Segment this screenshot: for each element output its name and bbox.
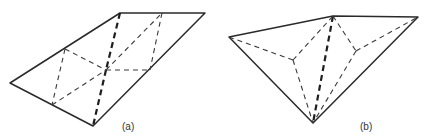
panel-b: (b) [229, 16, 418, 132]
thin-crease-line [52, 49, 65, 105]
thin-crease-line [106, 13, 162, 70]
thin-crease-line [333, 16, 356, 51]
panel-b-label: (b) [360, 121, 372, 132]
crease-pattern-figure: (a) (b) [0, 0, 427, 138]
panel-a-thin-creases [52, 13, 162, 105]
thin-crease-line [65, 49, 106, 70]
thin-crease-line [229, 37, 293, 60]
bold-crease-line [93, 70, 106, 126]
thin-crease-line [52, 70, 106, 105]
bold-crease-line [106, 13, 120, 70]
panel-a: (a) [10, 13, 205, 132]
thin-crease-line [356, 17, 418, 51]
panel-a-label: (a) [122, 121, 134, 132]
